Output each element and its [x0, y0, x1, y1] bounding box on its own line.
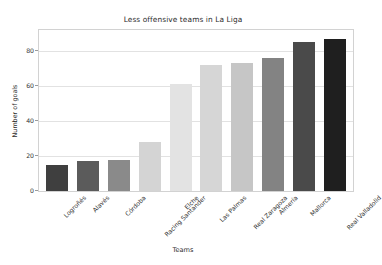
bar: [293, 42, 315, 191]
bar: [262, 58, 284, 191]
x-tick-label: Alavés: [91, 194, 110, 213]
bar: [170, 84, 192, 191]
plot-area: [38, 29, 354, 192]
x-tick-label: Real Valladolid: [345, 194, 382, 231]
x-axis-label: Teams: [0, 246, 366, 254]
x-axis-tick-labels: LogroñésAlavésCórdobaRacing SantanderElc…: [38, 194, 354, 244]
y-tick-label: 40: [4, 117, 34, 124]
x-tick-label: Mallorca: [308, 194, 331, 217]
x-tick-label: Racing Santander: [163, 194, 207, 238]
bar: [324, 39, 346, 191]
bar: [139, 142, 161, 191]
x-tick-label: Córdoba: [124, 194, 147, 217]
y-axis: Number of goals 020406080: [0, 29, 34, 192]
y-tick-label: 80: [4, 47, 34, 54]
bar: [200, 65, 222, 191]
bar-series: [39, 30, 353, 191]
y-tick-label: 0: [4, 187, 34, 194]
bar: [46, 165, 68, 191]
chart-title: Less offensive teams in La Liga: [0, 15, 366, 24]
y-tick-label: 20: [4, 152, 34, 159]
bar: [77, 161, 99, 191]
x-tick-label: Las Palmas: [218, 194, 247, 223]
x-tick-label: Logroñés: [63, 194, 88, 219]
y-tick-label: 60: [4, 82, 34, 89]
bar: [231, 63, 253, 191]
bar: [108, 160, 130, 192]
